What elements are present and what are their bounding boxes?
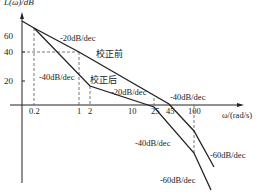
x-tick-45: 45	[166, 106, 175, 116]
x-axis-label: ω/(rad/s)	[222, 110, 252, 120]
x-tick-100: 100	[188, 106, 201, 116]
slope-label-m40-right: -40dB/dec	[170, 92, 206, 102]
label-pre-correction: 校正前	[96, 48, 123, 59]
label-post-correction: 校正后	[90, 74, 117, 85]
y-tick-60: 60	[4, 31, 14, 41]
y-axis-arrow-icon	[20, 12, 24, 19]
slope-label-m20-mid: -20dB/dec	[111, 87, 147, 97]
slope-label-m40-left: -40dB/dec	[39, 72, 75, 82]
x-tick-25: 25	[151, 106, 160, 116]
slope-label-m60-lower: -60dB/dec	[160, 175, 196, 185]
guide-lines	[22, 28, 194, 153]
x-tick-0.2: 0.2	[29, 106, 40, 116]
x-tick-1: 1	[77, 106, 81, 116]
slope-label-m60-right: -60dB/dec	[210, 150, 246, 160]
x-tick-10: 10	[128, 106, 137, 116]
y-axis-label: L(ω)/dB	[3, 0, 34, 7]
y-tick-40: 40	[4, 47, 14, 57]
x-axis-arrow-icon	[237, 103, 244, 107]
slope-label-m20-top: -20dB/dec	[60, 33, 96, 43]
slope-label-m40-lower: -40dB/dec	[135, 138, 171, 148]
bode-diagram: L(ω)/dB ω/(rad/s) 60 40 20 0.2 1 2 10 25…	[0, 0, 262, 194]
x-tick-2: 2	[88, 106, 92, 116]
y-tick-20: 20	[4, 76, 14, 86]
